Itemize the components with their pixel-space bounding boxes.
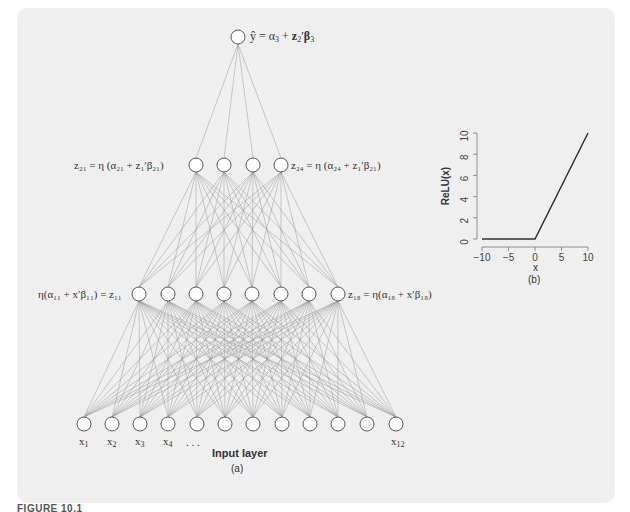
- svg-text:0: 0: [459, 239, 470, 245]
- svg-text:−10: −10: [474, 252, 491, 263]
- panel-b-label: (b): [528, 274, 540, 286]
- svg-text:6: 6: [459, 175, 470, 181]
- chart-ylabel: ReLU(x): [440, 167, 452, 205]
- svg-text:2: 2: [459, 218, 470, 224]
- relu-line: [482, 133, 588, 239]
- svg-text:8: 8: [459, 154, 470, 160]
- svg-text:4: 4: [459, 196, 470, 202]
- figure-caption: FIGURE 10.1: [17, 503, 83, 512]
- svg-text:−5: −5: [503, 252, 515, 263]
- svg-text:10: 10: [459, 130, 470, 142]
- svg-text:10: 10: [582, 252, 594, 263]
- chart-xlabel: x: [533, 262, 538, 274]
- relu-chart: −10−505100246810: [0, 0, 630, 512]
- svg-text:5: 5: [559, 252, 565, 263]
